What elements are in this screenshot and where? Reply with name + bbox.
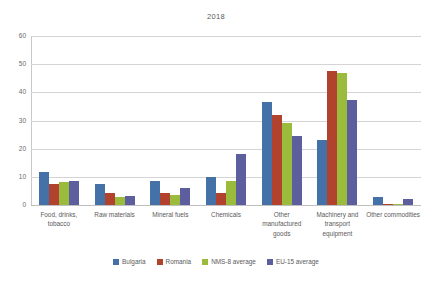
- bar: [373, 197, 383, 205]
- chart-title: 2018: [0, 12, 432, 21]
- bar: [170, 195, 180, 205]
- bar: [160, 193, 170, 205]
- y-tick-label: 50: [4, 61, 26, 68]
- bar-group: [31, 36, 87, 205]
- bar-group: [198, 36, 254, 205]
- bar: [327, 71, 337, 205]
- bar: [125, 196, 135, 205]
- bar: [337, 73, 347, 205]
- bar: [347, 100, 357, 205]
- legend-label: NMS-8 average: [211, 259, 256, 265]
- chart-legend: BulgariaRomaniaNMS-8 averageEU-15 averag…: [0, 259, 432, 265]
- bar: [226, 181, 236, 206]
- legend-item[interactable]: Bulgaria: [113, 259, 145, 265]
- bar: [69, 181, 79, 205]
- bar-group: [310, 36, 366, 205]
- bar: [49, 184, 59, 205]
- y-tick-label: 40: [4, 89, 26, 96]
- category-axis-labels: Food, drinks, tobaccoRaw materialsMinera…: [31, 210, 421, 258]
- legend-swatch-icon: [267, 259, 273, 265]
- legend-swatch-icon: [202, 259, 208, 265]
- legend-label: Bulgaria: [122, 259, 145, 265]
- bar: [95, 184, 105, 205]
- bar: [39, 172, 49, 205]
- category-label: Raw materials: [87, 210, 143, 219]
- bar-group: [365, 36, 421, 205]
- gridline-0: [31, 205, 421, 206]
- y-tick-label: 20: [4, 145, 26, 152]
- bar: [180, 188, 190, 205]
- category-label: Other commodities: [365, 210, 421, 219]
- legend-item[interactable]: EU-15 average: [267, 259, 319, 265]
- bar-chart: 2018 0102030405060 Food, drinks, tobacco…: [0, 0, 432, 287]
- legend-swatch-icon: [113, 259, 119, 265]
- bar-group: [142, 36, 198, 205]
- category-label: Other manufactured goods: [254, 210, 310, 238]
- bar: [272, 115, 282, 205]
- bar: [236, 154, 246, 205]
- bar: [206, 177, 216, 205]
- category-label: Machinery and transport equipment: [310, 210, 366, 238]
- bar: [292, 136, 302, 205]
- bar: [282, 123, 292, 205]
- category-label: Food, drinks, tobacco: [31, 210, 87, 229]
- bar: [150, 181, 160, 205]
- bar-group: [87, 36, 143, 205]
- bar: [383, 204, 393, 205]
- bar: [403, 199, 413, 205]
- bar: [105, 193, 115, 205]
- bar: [393, 204, 403, 205]
- legend-item[interactable]: Romania: [157, 259, 192, 265]
- bar-groups: [31, 36, 421, 205]
- bar: [216, 193, 226, 205]
- legend-swatch-icon: [157, 259, 163, 265]
- legend-label: Romania: [166, 259, 192, 265]
- y-tick-label: 30: [4, 117, 26, 124]
- category-label: Mineral fuels: [142, 210, 198, 219]
- y-tick-label: 0: [4, 202, 26, 209]
- bar: [115, 197, 125, 205]
- bar: [59, 182, 69, 205]
- bar-group: [254, 36, 310, 205]
- bar: [317, 140, 327, 205]
- y-tick-label: 10: [4, 174, 26, 181]
- bar: [262, 102, 272, 205]
- y-tick-label: 60: [4, 33, 26, 40]
- legend-item[interactable]: NMS-8 average: [202, 259, 256, 265]
- category-label: Chemicals: [198, 210, 254, 219]
- legend-label: EU-15 average: [276, 259, 319, 265]
